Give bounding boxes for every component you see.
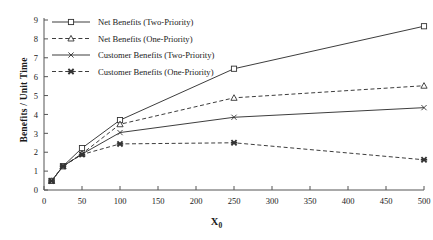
data-point-marker (231, 140, 237, 145)
data-point-marker (117, 141, 123, 146)
legend-label: Customer Benefits (One-Priority) (98, 67, 214, 77)
x-tick-label: 100 (114, 196, 127, 206)
series-line (52, 108, 424, 181)
legend-item-0[interactable]: Net Benefits (Two-Priority) (52, 17, 193, 27)
x-tick-label: 400 (342, 196, 355, 206)
legend-item-2[interactable]: Customer Benefits (Two-Priority) (52, 50, 214, 60)
x-tick-label: 200 (190, 196, 203, 206)
y-tick-label: 8 (34, 34, 38, 44)
legend-marker (68, 69, 74, 74)
y-tick-label: 7 (34, 53, 38, 63)
y-tick-label: 5 (34, 91, 38, 101)
y-tick-label: 4 (34, 110, 39, 120)
x-tick-label: 350 (304, 196, 317, 206)
x-tick-label: 150 (152, 196, 165, 206)
x-tick-label: 300 (266, 196, 279, 206)
data-point-marker (231, 95, 237, 101)
series-line (52, 143, 424, 181)
series-3 (48, 140, 427, 183)
y-tick-label: 2 (34, 147, 38, 157)
series-2 (49, 105, 427, 183)
data-point-marker (421, 83, 427, 89)
plot-area: 050100150200250300350400450500 012345678… (0, 0, 433, 240)
legend: Net Benefits (Two-Priority)Net Benefits … (52, 17, 214, 77)
data-series-group (48, 24, 427, 184)
series-0 (49, 24, 427, 184)
legend-item-1[interactable]: Net Benefits (One-Priority) (52, 34, 193, 44)
legend-label: Net Benefits (One-Priority) (98, 34, 193, 44)
legend-label: Customer Benefits (Two-Priority) (98, 50, 214, 60)
x-tick-label: 450 (380, 196, 393, 206)
x-tick-label: 500 (418, 196, 431, 206)
series-1 (49, 83, 428, 184)
x-tick-label: 0 (42, 196, 46, 206)
y-tick-label: 3 (34, 129, 38, 139)
legend-label: Net Benefits (Two-Priority) (98, 17, 193, 27)
data-point-marker (421, 24, 426, 29)
y-axis-ticks: 0123456789 (34, 15, 48, 195)
x-axis-ticks: 050100150200250300350400450500 (42, 186, 431, 206)
y-tick-label: 6 (34, 72, 38, 82)
x-tick-label: 250 (228, 196, 241, 206)
x-tick-label: 50 (78, 196, 87, 206)
chart-container: Benefits / Unit Time X0 0501001502002503… (0, 0, 433, 240)
legend-marker (68, 19, 73, 24)
y-tick-label: 9 (34, 15, 38, 25)
legend-item-3[interactable]: Customer Benefits (One-Priority) (52, 67, 214, 77)
series-line (52, 86, 424, 181)
y-tick-label: 0 (34, 185, 38, 195)
y-tick-label: 1 (34, 166, 38, 176)
data-point-marker (231, 66, 236, 71)
data-point-marker (421, 157, 427, 162)
axes (44, 18, 424, 190)
